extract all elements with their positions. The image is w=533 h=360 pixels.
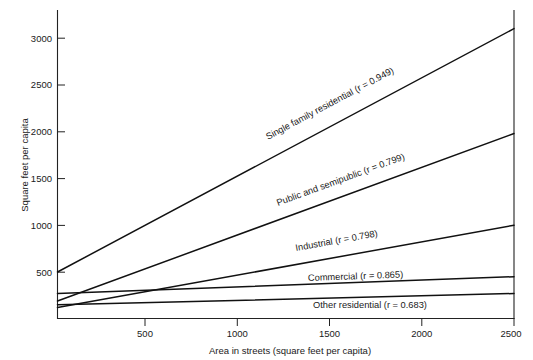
series-label-other-residential: Other residential (r = 0.683) [313,300,427,310]
x-axis-title: Area in streets (square feet per capita) [209,345,371,356]
y-tick-label-1000: 1000 [31,220,52,231]
y-tick-label-1500: 1500 [31,173,52,184]
x-tick-label-500: 500 [137,328,153,339]
x-tick-label-1500: 1500 [319,328,340,339]
y-tick-label-2000: 2000 [31,126,52,137]
chart-figure: 3000 2500 2000 1500 1000 500 500 1000 15… [0,0,533,360]
scatter-regression-chart: 3000 2500 2000 1500 1000 500 500 1000 15… [0,0,533,360]
x-tick-label-2500: 2500 [500,328,521,339]
y-tick-label-500: 500 [36,267,52,278]
x-tick-label-1000: 1000 [227,328,248,339]
x-tick-label-2000: 2000 [411,328,432,339]
y-tick-label-2500: 2500 [31,79,52,90]
y-axis-title: Square feet per capita [19,118,30,212]
chart-background [0,0,533,360]
y-tick-label-3000: 3000 [31,33,52,44]
